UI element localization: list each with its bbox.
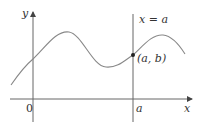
a-tick-label: a — [136, 102, 143, 115]
graph-diagram: y x 0 a x = a (a, b) — [0, 0, 204, 128]
vertical-line-label: x = a — [139, 13, 168, 26]
point-a-b — [131, 53, 135, 57]
x-axis-label: x — [184, 102, 191, 115]
origin-label: 0 — [26, 102, 33, 115]
point-label: (a, b) — [137, 52, 166, 65]
y-axis-label: y — [21, 7, 29, 20]
